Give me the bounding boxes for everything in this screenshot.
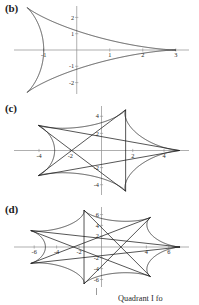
svg-text:4: 4: [145, 248, 149, 255]
plot-area-b: -1123-2-112: [0, 0, 199, 100]
svg-text:4: 4: [96, 112, 100, 119]
caption-fragment: Quadrant I fo: [118, 294, 163, 305]
svg-text:1: 1: [108, 51, 111, 58]
svg-text:3: 3: [174, 51, 177, 58]
svg-text:-2: -2: [69, 79, 74, 86]
svg-text:2: 2: [131, 152, 134, 159]
svg-text:-1: -1: [69, 62, 74, 69]
svg-text:2: 2: [141, 51, 144, 58]
plot-panel-c: (c) -4-224-4-224: [0, 100, 199, 201]
plot-panel-b: (b) -1123-2-112: [0, 0, 199, 100]
page-edge-tick: [96, 288, 97, 295]
svg-text:-6: -6: [32, 248, 37, 255]
svg-text:2: 2: [71, 14, 74, 21]
plot-panel-d: (d) -6-4-246-6-4-2246: [0, 201, 199, 293]
plot-area-d: -6-4-246-6-4-2246: [0, 201, 199, 293]
plot-area-c: -4-224-4-224: [0, 100, 199, 201]
svg-text:1: 1: [71, 30, 74, 37]
svg-text:-4: -4: [36, 152, 42, 159]
svg-text:-4: -4: [94, 181, 100, 188]
